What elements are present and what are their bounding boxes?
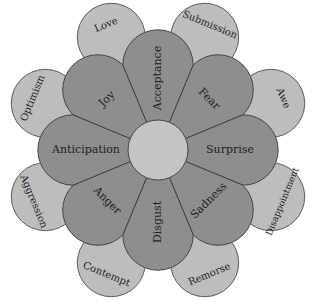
- primary-label: Anticipation: [51, 143, 120, 156]
- primary-label: Acceptance: [151, 46, 164, 112]
- emotion-wheel: SubmissionAweDisappointmentRemorseContem…: [0, 0, 315, 307]
- center-circle: [128, 120, 188, 180]
- primary-label: Surprise: [206, 143, 254, 156]
- primary-label: Disgust: [151, 200, 164, 243]
